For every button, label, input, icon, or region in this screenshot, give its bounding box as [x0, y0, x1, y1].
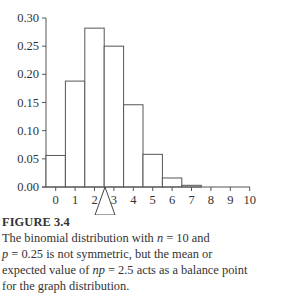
x-tick-label: 9 — [227, 193, 233, 207]
binomial-histogram: 0.000.050.100.150.200.250.30 01234567891… — [0, 0, 289, 215]
bar-5 — [143, 154, 162, 187]
bar-1 — [65, 81, 84, 187]
bar-4 — [124, 105, 143, 187]
x-tick-label: 6 — [169, 193, 175, 207]
y-tick-label: 0.20 — [17, 67, 39, 81]
bar-6 — [162, 178, 181, 187]
caption-line-2: p = 0.25 is not symmetric, but the mean … — [2, 246, 288, 262]
caption-line-3: expected value of np = 2.5 acts as a bal… — [2, 262, 288, 278]
x-tick-label: 8 — [208, 193, 214, 207]
bar-3 — [104, 46, 123, 187]
y-axis: 0.000.050.100.150.200.250.30 — [17, 11, 46, 194]
figure-caption: FIGURE 3.4 The binomial distribution wit… — [2, 214, 288, 294]
bars — [46, 28, 201, 187]
caption-line-4: for the graph distribution. — [2, 278, 288, 294]
y-tick-label: 0.05 — [17, 152, 39, 166]
x-tick-label: 1 — [72, 193, 78, 207]
y-tick-label: 0.00 — [17, 180, 39, 194]
caption-line-1: The binomial distribution with n = 10 an… — [2, 230, 288, 246]
bar-0 — [46, 155, 65, 187]
x-tick-label: 0 — [53, 193, 59, 207]
y-tick-label: 0.10 — [17, 124, 39, 138]
x-tick-label: 10 — [243, 193, 256, 207]
x-tick-label: 4 — [130, 193, 137, 207]
x-tick-label: 7 — [188, 193, 194, 207]
y-tick-label: 0.30 — [17, 11, 39, 25]
y-tick-label: 0.15 — [17, 96, 39, 110]
y-tick-label: 0.25 — [17, 39, 39, 53]
x-axis: 012345678910 — [42, 187, 256, 207]
figure-label: FIGURE 3.4 — [2, 214, 288, 230]
x-tick-label: 2 — [91, 193, 97, 207]
x-tick-label: 5 — [150, 193, 156, 207]
bar-2 — [85, 28, 104, 187]
